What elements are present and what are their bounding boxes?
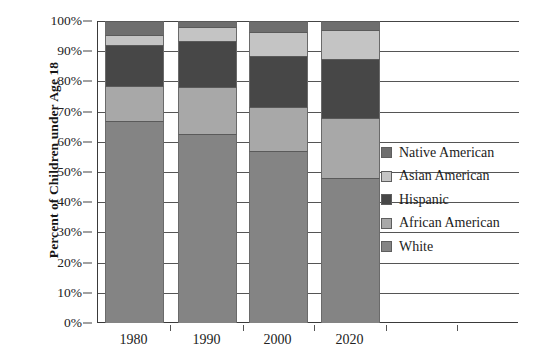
bar-segment[interactable] — [249, 32, 308, 56]
bar-segment[interactable] — [249, 151, 308, 323]
x-axis-tick-labels: 1980199020002020 — [97, 325, 518, 359]
legend-item[interactable]: African American — [381, 212, 541, 236]
bar-segment[interactable] — [249, 21, 308, 32]
legend-item[interactable]: Asian American — [381, 165, 541, 189]
x-tick-mark — [170, 325, 171, 331]
bar-segment[interactable] — [105, 35, 164, 46]
legend-label: Native American — [399, 146, 494, 160]
bar-column[interactable] — [105, 21, 164, 323]
y-tick-label: 100% — [51, 13, 83, 29]
x-tick-label: 2020 — [310, 332, 390, 348]
bar-segment[interactable] — [178, 27, 237, 41]
x-tick-label: 1980 — [94, 332, 174, 348]
x-tick-mark — [457, 325, 458, 331]
y-tick-mark — [83, 262, 92, 263]
bar-segment[interactable] — [105, 45, 164, 86]
legend-label: White — [399, 240, 433, 254]
bar-column[interactable] — [321, 21, 380, 323]
x-tick-mark — [386, 325, 387, 331]
y-tick-mark — [83, 202, 92, 203]
y-tick-mark — [83, 21, 92, 22]
y-tick-label: 30% — [57, 224, 82, 240]
y-tick-mark — [83, 323, 92, 324]
bar-segment[interactable] — [178, 41, 237, 88]
y-tick-mark — [83, 51, 92, 52]
stacked-bar-chart: Percent of Children under Age 18 0%10%20… — [0, 0, 547, 364]
legend-swatch-icon — [381, 171, 392, 182]
x-tick-label: 1990 — [167, 332, 247, 348]
y-tick-mark — [83, 172, 92, 173]
legend-label: African American — [399, 216, 500, 230]
y-tick-mark — [83, 292, 92, 293]
bar-segment[interactable] — [105, 21, 164, 35]
y-tick-mark — [83, 111, 92, 112]
bar-segment[interactable] — [178, 21, 237, 27]
y-axis-tick-labels: 0%10%20%30%40%50%60%70%80%90%100% — [28, 21, 92, 323]
y-tick-label: 40% — [57, 194, 82, 210]
legend-item[interactable]: Hispanic — [381, 188, 541, 212]
x-tick-mark — [314, 325, 315, 331]
x-tick-label: 2000 — [238, 332, 318, 348]
y-tick-label: 80% — [57, 73, 82, 89]
y-tick-label: 60% — [57, 134, 82, 150]
y-tick-mark — [83, 81, 92, 82]
y-tick-label: 20% — [57, 255, 82, 271]
legend-label: Asian American — [399, 169, 490, 183]
x-tick-mark — [243, 325, 244, 331]
bar-segment[interactable] — [321, 59, 380, 118]
bar-column[interactable] — [249, 21, 308, 323]
legend-swatch-icon — [381, 218, 392, 229]
bar-segment[interactable] — [249, 56, 308, 107]
bar-segment[interactable] — [321, 178, 380, 323]
y-tick-label: 70% — [57, 104, 82, 120]
bar-column[interactable] — [178, 21, 237, 323]
bar-segment[interactable] — [321, 118, 380, 178]
y-tick-mark — [83, 141, 92, 142]
legend-swatch-icon — [381, 194, 392, 205]
legend-item[interactable]: Native American — [381, 141, 541, 165]
y-tick-label: 0% — [64, 315, 82, 331]
legend-label: Hispanic — [399, 193, 449, 207]
y-tick-label: 90% — [57, 43, 82, 59]
bar-segment[interactable] — [321, 30, 380, 59]
legend-swatch-icon — [381, 147, 392, 158]
bar-segment[interactable] — [178, 134, 237, 323]
bar-segment[interactable] — [105, 86, 164, 121]
bar-segment[interactable] — [321, 21, 380, 30]
bar-segment[interactable] — [249, 107, 308, 151]
chart-legend: Native AmericanAsian AmericanHispanicAfr… — [381, 141, 541, 259]
bar-segment[interactable] — [178, 87, 237, 134]
y-tick-label: 50% — [57, 164, 82, 180]
legend-swatch-icon — [381, 241, 392, 252]
legend-item[interactable]: White — [381, 235, 541, 259]
bar-segment[interactable] — [105, 121, 164, 323]
y-tick-label: 10% — [57, 285, 82, 301]
y-tick-mark — [83, 232, 92, 233]
